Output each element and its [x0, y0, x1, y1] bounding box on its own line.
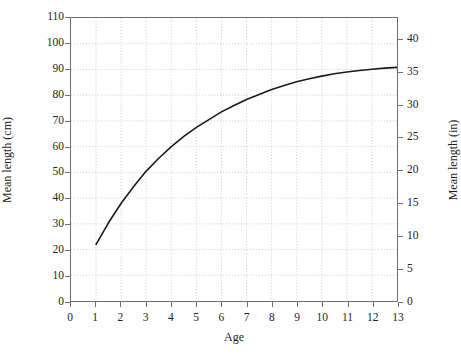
y-axis-right-tick-mark	[398, 137, 403, 138]
y-axis-right-tick-label: 35	[407, 66, 433, 78]
y-axis-right-tick-mark	[398, 105, 403, 106]
y-axis-right-tick-mark	[398, 236, 403, 237]
x-axis-tick-label: 5	[193, 312, 199, 324]
y-axis-left-tick-mark	[65, 198, 70, 199]
y-axis-right-tick-mark	[398, 269, 403, 270]
x-axis-title: Age	[224, 330, 244, 345]
x-axis-tick-label: 9	[294, 312, 300, 324]
data-curve-layer	[71, 18, 397, 301]
y-axis-left-tick-mark	[65, 276, 70, 277]
y-axis-left-tick-label: 20	[20, 244, 64, 256]
x-axis-tick-mark	[120, 302, 121, 307]
y-axis-left-title: Mean length (cm)	[0, 117, 15, 203]
y-axis-right-tick-label: 0	[407, 296, 433, 308]
y-axis-left-tick-label: 80	[20, 89, 64, 101]
y-axis-left-tick-label: 110	[20, 11, 64, 23]
x-axis-tick-label: 2	[118, 312, 124, 324]
x-axis-tick-label: 4	[168, 312, 174, 324]
x-axis-tick-label: 12	[367, 312, 379, 324]
y-axis-left-tick-label: 90	[20, 63, 64, 75]
y-axis-right-title: Mean length (in)	[446, 120, 461, 201]
x-axis-tick-mark	[348, 302, 349, 307]
x-axis-tick-mark	[171, 302, 172, 307]
y-axis-right-tick-label: 25	[407, 132, 433, 144]
y-axis-left-tick-mark	[65, 95, 70, 96]
x-axis-tick-mark	[373, 302, 374, 307]
y-axis-right-tick-mark	[398, 72, 403, 73]
x-axis-tick-mark	[247, 302, 248, 307]
x-axis-tick-mark	[398, 302, 399, 307]
y-axis-left-tick-label: 0	[20, 296, 64, 308]
y-axis-right-tick-mark	[398, 203, 403, 204]
y-axis-left-tick-mark	[65, 17, 70, 18]
y-axis-left-tick-mark	[65, 147, 70, 148]
y-axis-right-tick-mark	[398, 39, 403, 40]
y-axis-left-tick-label: 10	[20, 270, 64, 282]
y-axis-right-tick-mark	[398, 170, 403, 171]
x-axis-tick-label: 6	[219, 312, 225, 324]
x-axis-tick-label: 13	[392, 312, 404, 324]
x-axis-tick-mark	[322, 302, 323, 307]
y-axis-right-tick-label: 40	[407, 33, 433, 45]
x-axis-tick-label: 10	[317, 312, 329, 324]
y-axis-left-tick-label: 30	[20, 219, 64, 231]
x-axis-tick-mark	[297, 302, 298, 307]
y-axis-left-tick-mark	[65, 43, 70, 44]
x-axis-tick-label: 11	[342, 312, 353, 324]
y-axis-left-tick-mark	[65, 250, 70, 251]
x-axis-tick-label: 3	[143, 312, 149, 324]
y-axis-left-tick-label: 50	[20, 167, 64, 179]
x-axis-tick-label: 8	[269, 312, 275, 324]
y-axis-right-tick-label: 30	[407, 99, 433, 111]
x-axis-tick-mark	[272, 302, 273, 307]
y-axis-right-tick-label: 5	[407, 263, 433, 275]
y-axis-left-tick-mark	[65, 69, 70, 70]
x-axis-tick-label: 7	[244, 312, 250, 324]
y-axis-left-tick-label: 70	[20, 115, 64, 127]
y-axis-right-tick-label: 15	[407, 198, 433, 210]
y-axis-left-tick-mark	[65, 121, 70, 122]
y-axis-left-tick-label: 40	[20, 193, 64, 205]
y-axis-right-tick-label: 20	[407, 165, 433, 177]
y-axis-left-tick-mark	[65, 172, 70, 173]
y-axis-left-tick-label: 100	[20, 37, 64, 49]
x-axis-tick-label: 0	[67, 312, 73, 324]
plot-area	[70, 17, 398, 302]
y-axis-left-tick-mark	[65, 224, 70, 225]
x-axis-tick-mark	[95, 302, 96, 307]
x-axis-tick-label: 1	[92, 312, 98, 324]
x-axis-tick-mark	[146, 302, 147, 307]
x-axis-tick-mark	[196, 302, 197, 307]
y-axis-right-tick-label: 10	[407, 230, 433, 242]
y-axis-left-tick-label: 60	[20, 141, 64, 153]
x-axis-tick-mark	[70, 302, 71, 307]
x-axis-tick-mark	[221, 302, 222, 307]
